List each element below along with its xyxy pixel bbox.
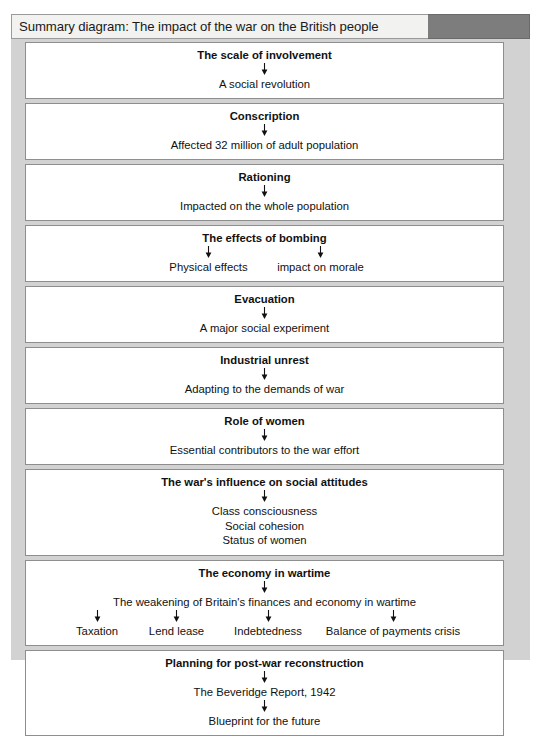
box-line: Social cohesion — [30, 519, 499, 534]
down-arrow-icon — [260, 368, 269, 381]
box-line: The Beveridge Report, 1942 — [30, 685, 499, 699]
header-accent-block — [428, 14, 530, 39]
page-title: Summary diagram: The impact of the war o… — [19, 19, 379, 34]
down-arrow-icon — [204, 246, 213, 259]
down-arrow-icon — [260, 429, 269, 442]
down-arrow-icon — [260, 490, 269, 503]
box-line: Impacted on the whole population — [30, 199, 499, 213]
branch-column: Indebtedness — [219, 609, 317, 638]
diagram-box-rationing: Rationing Impacted on the whole populati… — [25, 164, 504, 221]
diagram-box-effects-of-bombing: The effects of bombing Physical effects … — [25, 225, 504, 282]
box-line: Affected 32 million of adult population — [30, 138, 499, 152]
box-line: A social revolution — [30, 77, 499, 91]
box-title: The war's influence on social attitudes — [30, 476, 499, 489]
box-title: Evacuation — [30, 293, 499, 306]
box-subtitle: The weakening of Britain's finances and … — [30, 595, 499, 609]
diagram-box-scale-of-involvement: The scale of involvement A social revolu… — [25, 42, 504, 99]
box-title: The effects of bombing — [30, 232, 499, 245]
down-arrow-icon — [260, 124, 269, 137]
branch-column: Taxation — [60, 609, 134, 638]
down-arrow-icon — [260, 185, 269, 198]
diagram-boxes-area: The scale of involvement A social revolu… — [25, 42, 504, 740]
box-line: Class consciousness — [30, 504, 499, 519]
diagram-box-economy-in-wartime: The economy in wartime The weakening of … — [25, 560, 504, 646]
branch-row: Taxation Lend lease Indebtedness Balance… — [30, 609, 499, 638]
down-arrow-icon — [260, 671, 269, 684]
branch-column: Physical effects — [153, 245, 265, 274]
down-arrow-icon — [260, 307, 269, 320]
diagram-box-conscription: Conscription Affected 32 million of adul… — [25, 103, 504, 160]
branch-label: Physical effects — [169, 260, 247, 274]
diagram-box-post-war-reconstruction: Planning for post-war reconstruction The… — [25, 650, 504, 736]
branch-column: impact on morale — [265, 245, 377, 274]
branch-column: Lend lease — [134, 609, 219, 638]
down-arrow-icon — [93, 610, 102, 623]
down-arrow-icon — [389, 610, 398, 623]
box-title: The economy in wartime — [30, 567, 499, 580]
down-arrow-icon — [260, 581, 269, 594]
diagram-header-bar: Summary diagram: The impact of the war o… — [11, 14, 530, 39]
box-line: A major social experiment — [30, 321, 499, 335]
box-title: Industrial unrest — [30, 354, 499, 367]
branch-label: Lend lease — [149, 624, 204, 638]
diagram-box-social-attitudes: The war's influence on social attitudes … — [25, 469, 504, 556]
box-title: Rationing — [30, 171, 499, 184]
box-title: Conscription — [30, 110, 499, 123]
box-line: Adapting to the demands of war — [30, 382, 499, 396]
box-title: Role of women — [30, 415, 499, 428]
header-title-plate: Summary diagram: The impact of the war o… — [11, 14, 428, 39]
branch-label: impact on morale — [277, 260, 364, 274]
diagram-box-role-of-women: Role of women Essential contributors to … — [25, 408, 504, 465]
diagram-box-evacuation: Evacuation A major social experiment — [25, 286, 504, 343]
down-arrow-icon — [316, 246, 325, 259]
branch-row: Physical effects impact on morale — [30, 245, 499, 274]
box-line: Blueprint for the future — [30, 714, 499, 728]
box-title: The scale of involvement — [30, 49, 499, 62]
branch-label: Balance of payments crisis — [326, 624, 460, 638]
diagram-box-industrial-unrest: Industrial unrest Adapting to the demand… — [25, 347, 504, 404]
down-arrow-icon — [172, 610, 181, 623]
box-line: Status of women — [30, 533, 499, 548]
box-title: Planning for post-war reconstruction — [30, 657, 499, 670]
down-arrow-icon — [260, 700, 269, 713]
branch-label: Indebtedness — [234, 624, 302, 638]
branch-label: Taxation — [76, 624, 118, 638]
branch-column: Balance of payments crisis — [317, 609, 469, 638]
box-line: Essential contributors to the war effort — [30, 443, 499, 457]
down-arrow-icon — [264, 610, 273, 623]
down-arrow-icon — [260, 63, 269, 76]
